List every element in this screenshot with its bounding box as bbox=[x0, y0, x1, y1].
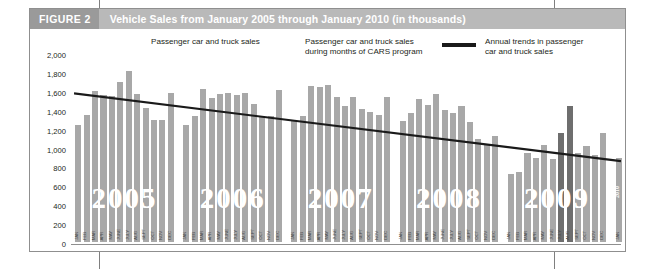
figure-frame: FIGURE 2 Vehicle Sales from January 2005… bbox=[29, 8, 626, 252]
x-axis-month-label: JAN bbox=[398, 232, 406, 240]
x-axis-month-label: MAY bbox=[432, 231, 440, 240]
figure-screenshot: FIGURE 2 Vehicle Sales from January 2005… bbox=[0, 0, 655, 269]
bar-column: AUG bbox=[349, 9, 357, 251]
bar-column: MAY bbox=[432, 9, 440, 251]
bar-column: MAY bbox=[216, 9, 224, 251]
x-axis-month-label: MAR bbox=[199, 231, 207, 240]
bar-column: DEC bbox=[167, 9, 175, 251]
bar-column: NOV bbox=[591, 9, 599, 251]
bar-column: MAY bbox=[108, 9, 116, 251]
bar-column: FEB bbox=[299, 9, 307, 251]
x-axis-month-label: NOV bbox=[158, 231, 166, 240]
x-axis-month-label: OCT bbox=[366, 231, 374, 240]
bar-column: OCT bbox=[258, 9, 266, 251]
bar-column: JAN bbox=[615, 9, 623, 251]
crop-mark-bottom-right bbox=[554, 252, 555, 269]
bar-column: FEB bbox=[82, 9, 90, 251]
x-axis-month-label: MAY bbox=[108, 231, 116, 240]
bar-column: AUG bbox=[241, 9, 249, 251]
bar-column: JAN bbox=[290, 9, 298, 251]
bar-column: MAY bbox=[540, 9, 548, 251]
bar-column: SEPT bbox=[358, 9, 366, 251]
bar-column: AUG bbox=[565, 9, 573, 251]
x-axis-month-label: JULY bbox=[233, 230, 241, 240]
x-axis-month-label: MAR bbox=[523, 231, 531, 240]
x-axis-month-label: DEC bbox=[167, 231, 175, 240]
x-axis-month-label: APR bbox=[532, 232, 540, 240]
y-axis-tick: 1,000 bbox=[47, 145, 66, 154]
x-axis-month-label: SEPT bbox=[141, 229, 149, 240]
x-axis-month-label: JULY bbox=[449, 230, 457, 240]
bar-column: MAR bbox=[199, 9, 207, 251]
bar-column: MAR bbox=[523, 9, 531, 251]
bar-column: OCT bbox=[474, 9, 482, 251]
x-axis-month-label: OCT bbox=[474, 231, 482, 240]
x-axis-month-label: DEC bbox=[383, 231, 391, 240]
bar-column: JULY bbox=[557, 9, 565, 251]
bar-column: JAN bbox=[398, 9, 406, 251]
bar-column: DEC bbox=[491, 9, 499, 251]
bar-column: JULY bbox=[233, 9, 241, 251]
bar-column: MAR bbox=[415, 9, 423, 251]
x-axis-month-label: AUG bbox=[457, 231, 465, 240]
x-axis-month-label: MAR bbox=[307, 231, 315, 240]
x-axis-month-label: JULY bbox=[341, 230, 349, 240]
x-axis-month-label: JUNE bbox=[332, 229, 340, 240]
x-axis-month-label: APR bbox=[207, 232, 215, 240]
bar-column: DEC bbox=[275, 9, 283, 251]
x-axis-month-label: SEPT bbox=[574, 229, 582, 240]
x-axis-month-label: JAN bbox=[182, 232, 190, 240]
x-axis-month-label: NOV bbox=[266, 231, 274, 240]
bar-column: JULY bbox=[341, 9, 349, 251]
bar-column: JAN bbox=[182, 9, 190, 251]
bar-column: JUNE bbox=[332, 9, 340, 251]
x-axis-month-label: FEB bbox=[299, 232, 307, 240]
x-axis-month-label: AUG bbox=[241, 231, 249, 240]
x-axis-month-label: SEPT bbox=[358, 229, 366, 240]
x-axis-month-label: MAY bbox=[216, 231, 224, 240]
x-axis-month-label: JUNE bbox=[116, 229, 124, 240]
x-axis-month-label: JAN bbox=[74, 232, 82, 240]
chart-plot-area: 02004006008001,0001,2001,4001,6001,8002,… bbox=[30, 9, 625, 251]
x-axis-month-label: JAN bbox=[290, 232, 298, 240]
x-axis-baseline bbox=[71, 244, 621, 245]
bar-column: APR bbox=[207, 9, 215, 251]
x-axis-month-label: FEB bbox=[515, 232, 523, 240]
bar-column: JAN bbox=[506, 9, 514, 251]
bar-column: SEPT bbox=[250, 9, 258, 251]
crop-mark-bottom-left bbox=[99, 252, 100, 269]
bar-column: SEPT bbox=[466, 9, 474, 251]
x-axis-month-label: FEB bbox=[191, 232, 199, 240]
bar-column: JUNE bbox=[116, 9, 124, 251]
bar-column: OCT bbox=[150, 9, 158, 251]
x-axis-month-label: JULY bbox=[125, 230, 133, 240]
bar-column: NOV bbox=[374, 9, 382, 251]
bar-column: OCT bbox=[582, 9, 590, 251]
bar-column: JULY bbox=[449, 9, 457, 251]
x-axis-month-label: NOV bbox=[483, 231, 491, 240]
x-axis-month-label: MAR bbox=[91, 231, 99, 240]
x-axis-month-label: SEPT bbox=[466, 229, 474, 240]
y-axis-tick: 400 bbox=[53, 202, 66, 211]
x-axis-month-label: MAY bbox=[324, 231, 332, 240]
bars-container: JANFEBMARAPRMAYJUNEJULYAUGSEPTOCTNOVDEC2… bbox=[74, 9, 621, 251]
bar-column: JUNE bbox=[440, 9, 448, 251]
y-axis: 02004006008001,0001,2001,4001,6001,8002,… bbox=[30, 9, 71, 251]
x-axis-month-label: SEPT bbox=[250, 229, 258, 240]
bar-column: DEC bbox=[599, 9, 607, 251]
bar-column: MAR bbox=[91, 9, 99, 251]
x-axis-month-label: DEC bbox=[599, 231, 607, 240]
x-axis-month-label: JULY bbox=[557, 230, 565, 240]
bar-column: NOV bbox=[158, 9, 166, 251]
bar-column: NOV bbox=[483, 9, 491, 251]
x-axis-month-label: AUG bbox=[349, 231, 357, 240]
x-axis-month-label: OCT bbox=[582, 231, 590, 240]
bar-column: MAY bbox=[324, 9, 332, 251]
x-axis-month-label: NOV bbox=[591, 231, 599, 240]
bar-column: OCT bbox=[366, 9, 374, 251]
x-axis-month-label: FEB bbox=[407, 232, 415, 240]
x-axis-month-label: JUNE bbox=[440, 229, 448, 240]
bar-column: AUG bbox=[457, 9, 465, 251]
x-axis-month-label: APR bbox=[424, 232, 432, 240]
x-axis-month-label: OCT bbox=[150, 231, 158, 240]
